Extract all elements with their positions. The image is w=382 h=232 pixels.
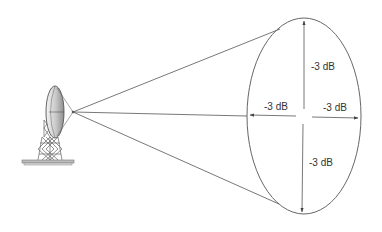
label-bottom: -3 dB — [309, 157, 333, 168]
label-left: -3 dB — [264, 101, 288, 112]
parabolic-dish — [46, 86, 74, 138]
beam-lower-edge — [73, 112, 279, 204]
beam-axis — [73, 112, 247, 116]
arrow-right — [312, 117, 358, 118]
arrow-left — [250, 115, 296, 116]
beamwidth-arrows — [250, 21, 358, 212]
beam-cone — [73, 29, 280, 204]
base-plate — [22, 160, 74, 165]
label-right: -3 dB — [323, 102, 347, 113]
antenna — [22, 86, 74, 165]
antenna-beam-diagram: -3 dB -3 dB -3 dB -3 dB — [0, 0, 382, 232]
beam-upper-edge — [73, 29, 280, 112]
arrow-down — [302, 124, 303, 212]
label-top: -3 dB — [311, 61, 335, 72]
